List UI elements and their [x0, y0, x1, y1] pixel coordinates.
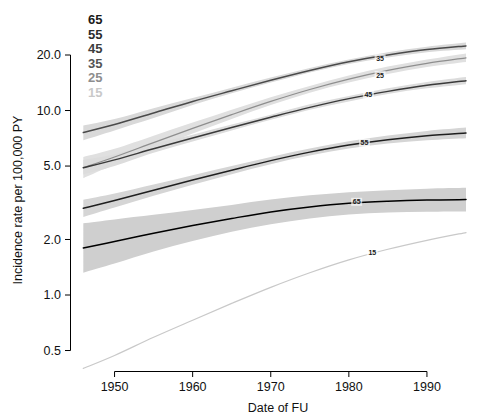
legend-entry-age-25: 25 [88, 70, 102, 85]
legend-entry-age-15: 15 [88, 85, 102, 100]
x-tick-label-1990: 1990 [413, 380, 441, 394]
chart-canvas: 352545556515 0.51.02.05.010.020.0 195019… [0, 0, 487, 419]
inline-label-text-35: 35 [376, 55, 384, 62]
inline-label-35: 35 [375, 54, 386, 62]
inline-label-text-65: 65 [353, 198, 361, 205]
inline-label-text-55: 55 [361, 139, 369, 146]
y-tick-label-0.5: 0.5 [44, 344, 61, 358]
inline-label-15: 15 [367, 248, 378, 256]
legend-entry-age-65: 65 [88, 12, 102, 27]
legend-entry-age-55: 55 [88, 27, 102, 42]
legend-entry-age-35: 35 [88, 56, 102, 71]
inline-label-text-15: 15 [368, 249, 376, 256]
inline-label-25: 25 [375, 71, 386, 79]
incidence-rate-chart-figure: 352545556515 0.51.02.05.010.020.0 195019… [0, 0, 487, 419]
legend-entry-age-45: 45 [88, 41, 102, 56]
y-tick-label-1.0: 1.0 [44, 288, 61, 302]
y-tick-label-10.0: 10.0 [37, 104, 61, 118]
inline-label-55: 55 [359, 139, 370, 147]
inline-label-text-25: 25 [376, 72, 384, 79]
x-tick-label-1980: 1980 [335, 380, 363, 394]
inline-label-45: 45 [363, 91, 374, 99]
legend: 655545352515 [88, 12, 102, 100]
y-tick-label-5.0: 5.0 [44, 159, 61, 173]
x-axis-title: Date of FU [248, 401, 308, 415]
x-tick-label-1970: 1970 [257, 380, 285, 394]
x-tick-label-1960: 1960 [179, 380, 207, 394]
inline-label-65: 65 [351, 198, 362, 206]
y-tick-label-20.0: 20.0 [37, 48, 61, 62]
y-axis-title: Incidence rate per 100,000 PY [11, 115, 25, 285]
x-tick-label-1950: 1950 [101, 380, 129, 394]
y-tick-label-2.0: 2.0 [44, 233, 61, 247]
inline-label-text-45: 45 [364, 91, 372, 98]
